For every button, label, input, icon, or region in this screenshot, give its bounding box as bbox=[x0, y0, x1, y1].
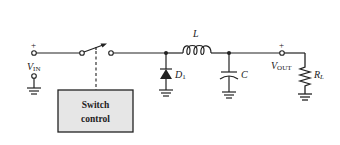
switch-control-label-line1: Switch bbox=[82, 100, 110, 110]
vin-positive-terminal bbox=[32, 51, 37, 56]
capacitor-label: C bbox=[241, 69, 248, 80]
diode-label: D1 bbox=[174, 69, 186, 81]
switch-control-label-line2: control bbox=[81, 114, 110, 124]
switch-control-box bbox=[58, 90, 133, 132]
vout-label: VOUT bbox=[271, 60, 292, 72]
inductor-icon bbox=[183, 46, 211, 55]
capacitor-icon bbox=[220, 53, 238, 98]
resistor-icon bbox=[298, 53, 312, 100]
load-label: RL bbox=[313, 69, 324, 81]
vout-plus-sign: + bbox=[279, 40, 284, 50]
vin-plus-sign: + bbox=[31, 40, 36, 50]
vin-negative-terminal bbox=[32, 74, 37, 79]
inductor-label: L bbox=[192, 28, 199, 39]
circuit-diagram: + VIN Switch control D1 L bbox=[0, 0, 340, 145]
vin-label: VIN bbox=[27, 61, 41, 73]
diode-icon bbox=[159, 53, 173, 96]
vout-terminal bbox=[280, 51, 285, 56]
ground-icon bbox=[27, 88, 41, 94]
